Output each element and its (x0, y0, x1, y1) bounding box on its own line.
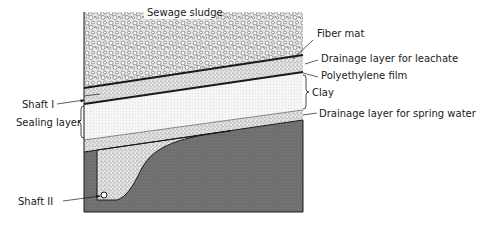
label-clay: Clay (312, 87, 334, 98)
label-fiber-mat: Fiber mat (317, 28, 364, 39)
label-drainage-spring: Drainage layer for spring water (319, 108, 477, 119)
clay-brace (303, 75, 309, 109)
shaft-2-pipe-icon (101, 192, 107, 198)
label-polyethylene-film: Polyethylene film (321, 70, 407, 81)
label-shaft-1: Shaft I (22, 99, 54, 110)
label-sewage-sludge: Sewage sludge (147, 7, 223, 18)
landfill-cross-section-diagram: Sewage sludge Fiber mat Drainage layer f… (0, 0, 481, 226)
label-shaft-2: Shaft II (18, 196, 53, 207)
label-sealing-layer: Sealing layer (16, 117, 82, 128)
label-drainage-leachate: Drainage layer for leachate (321, 53, 458, 64)
